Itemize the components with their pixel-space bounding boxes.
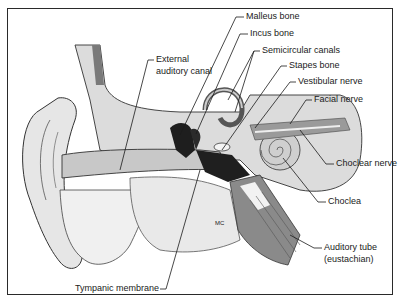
- label-mc: MC: [215, 218, 224, 229]
- label-external-line1: External: [156, 54, 189, 65]
- label-stapes-bone: Stapes bone: [289, 60, 340, 71]
- label-vestibular-nerve: Vestibular nerve: [298, 76, 363, 87]
- label-choclear-nerve: Choclear nerve: [336, 158, 397, 169]
- label-facial-nerve: Facial nerve: [314, 94, 363, 105]
- label-choclea: Choclea: [328, 196, 361, 207]
- label-auditory-tube-line2: (eustachian): [324, 254, 374, 265]
- eustachian-tube: [230, 175, 300, 265]
- label-malleus-bone: Malleus bone: [246, 11, 300, 22]
- label-semicircular-canals: Semicircular canals: [262, 45, 340, 56]
- label-incus-bone: Incus bone: [250, 28, 294, 39]
- label-tympanic-membrane: Tympanic membrane: [75, 283, 159, 294]
- label-external-line2: auditory canal: [156, 66, 212, 77]
- label-auditory-tube-line1: Auditory tube: [324, 242, 377, 253]
